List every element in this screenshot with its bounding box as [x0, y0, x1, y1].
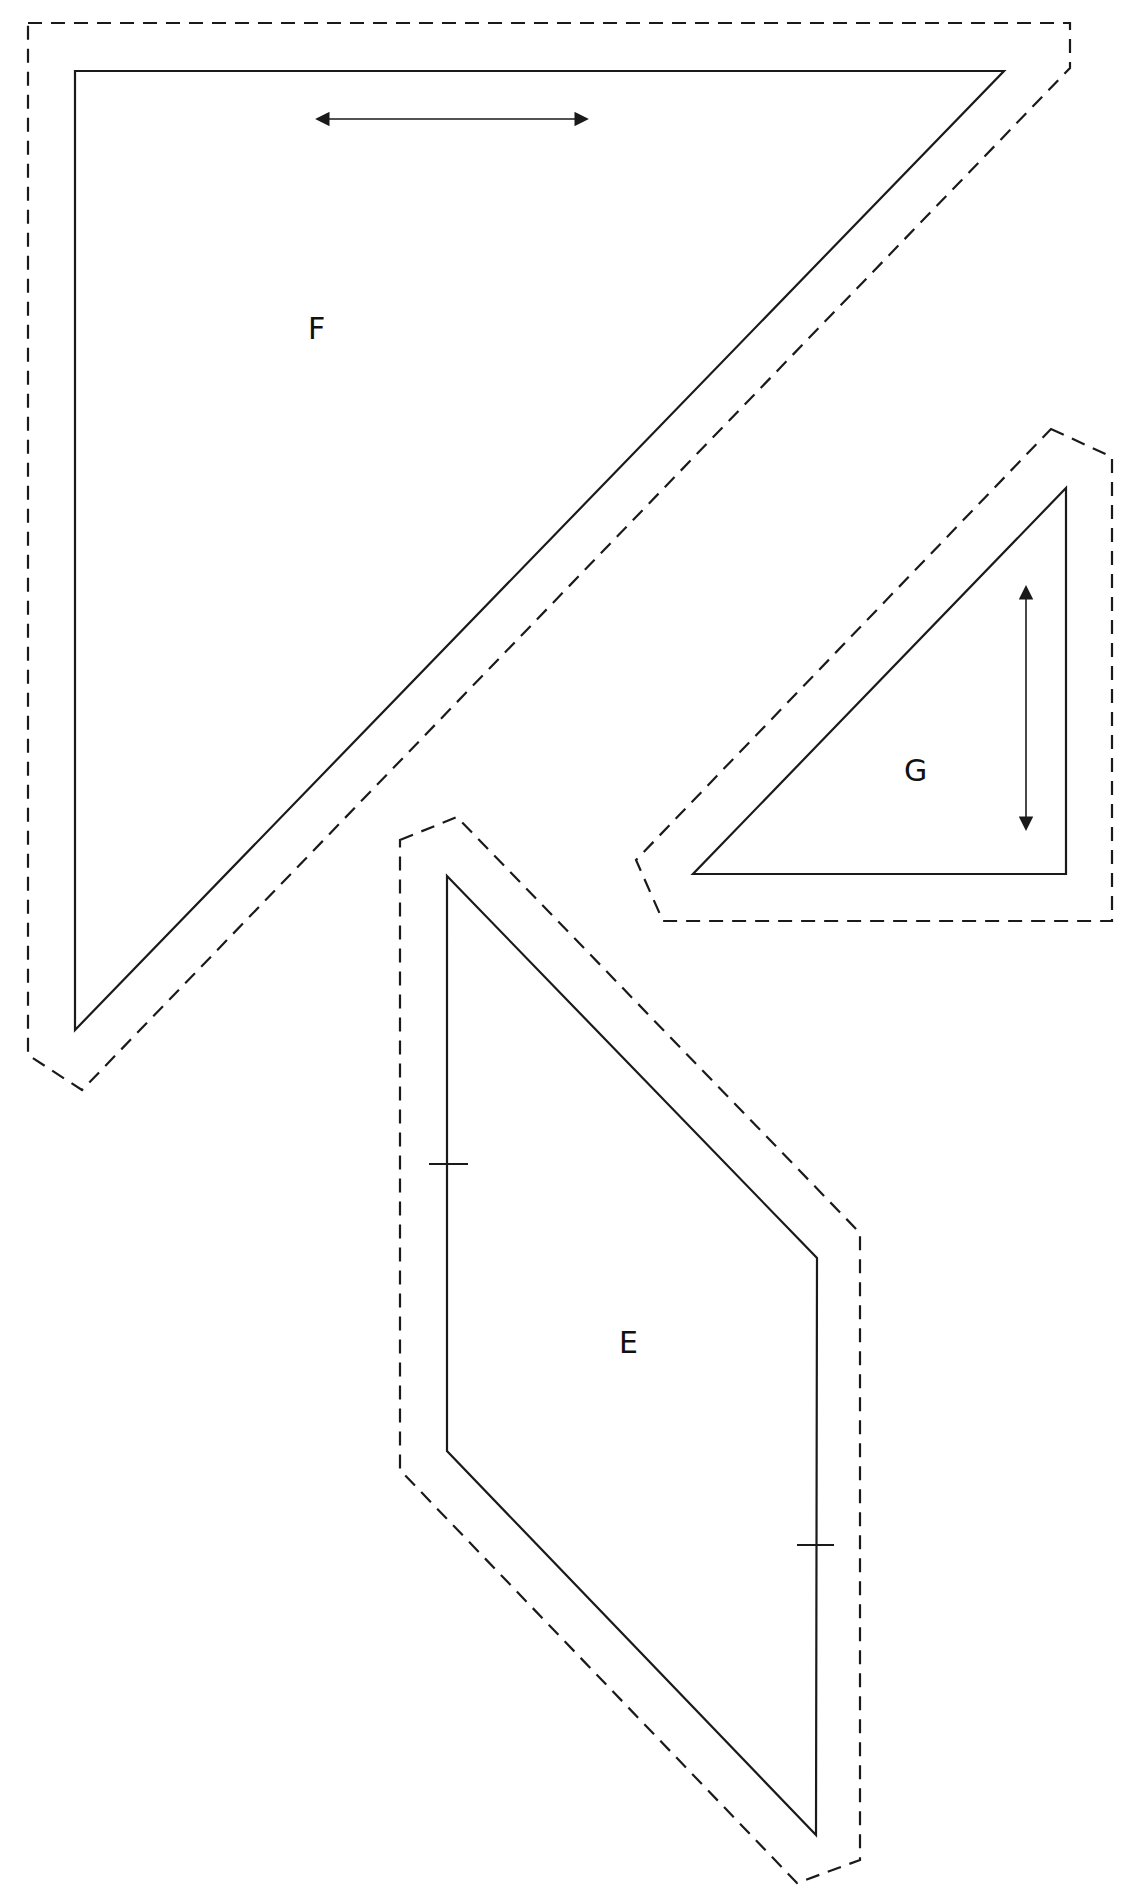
- piece-g-seam-allowance: [636, 429, 1112, 921]
- piece-g-label: G: [904, 753, 927, 788]
- piece-e-label: E: [619, 1325, 638, 1360]
- piece-f-seam-allowance: [28, 23, 1070, 1090]
- piece-f-outline: [75, 71, 1004, 1030]
- piece-g: G: [636, 429, 1112, 921]
- piece-g-outline: [693, 488, 1066, 874]
- piece-e: E: [400, 817, 860, 1883]
- piece-f: F: [28, 23, 1070, 1090]
- piece-f-label: F: [308, 311, 325, 346]
- pattern-sheet: F G E: [0, 0, 1146, 1885]
